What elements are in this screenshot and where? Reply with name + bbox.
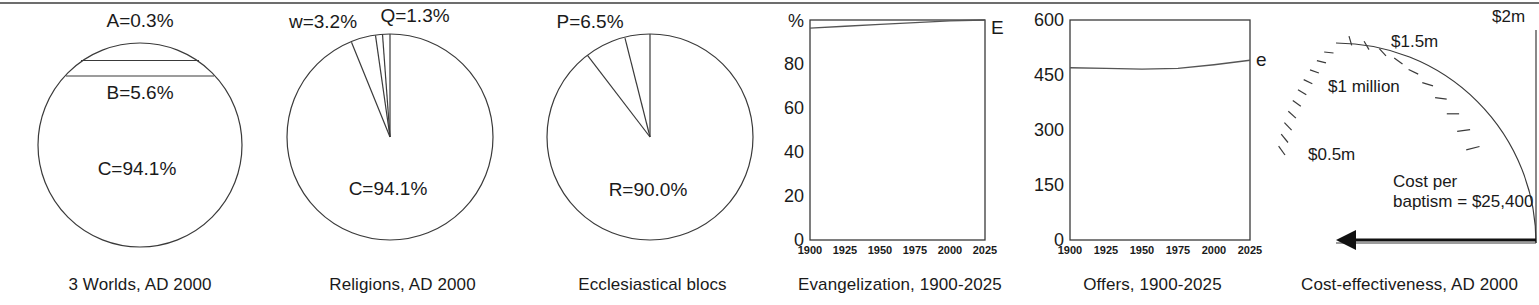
caption-three-worlds: 3 Worlds, AD 2000 <box>0 275 280 295</box>
x-tick-1950: 1950 <box>868 244 892 256</box>
y-tick-80: 80 <box>784 54 804 74</box>
panel-offers: e 0 150 300 450 600 1900 1925 1950 1975 … <box>1025 0 1280 305</box>
x-tick-1950: 1950 <box>1130 244 1154 256</box>
y-tick-60: 60 <box>784 98 804 118</box>
cost-effectiveness-gauge-svg: $0.5m $1 million $1.5m $2m Cost per bapt… <box>1280 0 1539 275</box>
caption-religions: Religions, AD 2000 <box>275 275 530 295</box>
y-tick-450: 450 <box>1034 65 1064 85</box>
label-c: C=94.1% <box>349 178 428 199</box>
panel-evangelization: E % 0 20 40 60 80 1900 1925 1950 1975 20… <box>775 0 1025 305</box>
y-unit-percent: % <box>788 11 804 31</box>
x-tick-2025: 2025 <box>1238 244 1262 256</box>
gauge-label-1-5m: $1.5m <box>1391 32 1438 51</box>
gauge-label-1-million: $1 million <box>1328 77 1400 96</box>
label-q: Q=1.3% <box>380 5 449 26</box>
panel-ecclesiastical-blocs: P=6.5% R=90.0% Ecclesiastical blocs <box>525 0 780 305</box>
x-tick-1975: 1975 <box>1166 244 1190 256</box>
y-tick-40: 40 <box>784 142 804 162</box>
gauge-arc <box>1336 43 1536 243</box>
x-tick-1925: 1925 <box>1094 244 1118 256</box>
pie-divider-1 <box>625 38 650 137</box>
series-label-E: E <box>991 17 1004 38</box>
caption-cost-effectiveness: Cost-effectiveness, AD 2000 <box>1280 275 1539 295</box>
gauge-note-line1: Cost per <box>1393 172 1458 191</box>
gauge-tick-marks <box>1279 52 1334 155</box>
three-worlds-pie-svg: A=0.3% B=5.6% C=94.1% <box>0 0 280 275</box>
plot-frame <box>810 20 985 240</box>
evangelization-chart-svg: E % 0 20 40 60 80 1900 1925 1950 1975 20… <box>775 0 1025 275</box>
caption-ecclesiastical-blocs: Ecclesiastical blocs <box>525 275 780 295</box>
gauge-label-2m: $2m <box>1492 7 1525 26</box>
x-tick-1900: 1900 <box>798 244 822 256</box>
y-tick-150: 150 <box>1034 175 1064 195</box>
label-r: R=90.0% <box>609 179 688 200</box>
label-p: P=6.5% <box>556 11 623 32</box>
panel-religions: w=3.2% Q=1.3% C=94.1% Religions, AD 2000 <box>275 0 530 305</box>
x-tick-2025: 2025 <box>973 244 997 256</box>
gauge-note-line2: baptism = $25,400 <box>1393 192 1533 211</box>
series-line-E <box>810 20 985 28</box>
x-tick-1925: 1925 <box>833 244 857 256</box>
label-c: C=94.1% <box>98 158 177 179</box>
series-line-e <box>1070 60 1250 69</box>
caption-offers: Offers, 1900-2025 <box>1025 275 1280 295</box>
x-tick-2000: 2000 <box>1202 244 1226 256</box>
offers-chart-svg: e 0 150 300 450 600 1900 1925 1950 1975 … <box>1025 0 1280 275</box>
religions-pie-svg: w=3.2% Q=1.3% C=94.1% <box>275 0 530 275</box>
series-label-e: e <box>1256 49 1267 70</box>
panel-three-worlds: A=0.3% B=5.6% C=94.1% 3 Worlds, AD 2000 <box>0 0 280 305</box>
label-b: B=5.6% <box>106 82 173 103</box>
gauge-needle-head <box>1336 230 1356 250</box>
y-tick-20: 20 <box>784 186 804 206</box>
x-tick-1975: 1975 <box>903 244 927 256</box>
pie-outline <box>38 43 242 247</box>
blocs-pie-svg: P=6.5% R=90.0% <box>525 0 780 275</box>
y-tick-600: 600 <box>1034 10 1064 30</box>
pie-divider-2 <box>376 35 391 137</box>
gauge-label-0-5m: $0.5m <box>1308 145 1355 164</box>
label-a: A=0.3% <box>106 10 173 31</box>
plot-frame <box>1070 20 1250 240</box>
y-tick-300: 300 <box>1034 120 1064 140</box>
caption-evangelization: Evangelization, 1900-2025 <box>775 275 1025 295</box>
x-tick-2000: 2000 <box>938 244 962 256</box>
x-tick-1900: 1900 <box>1058 244 1082 256</box>
panel-cost-effectiveness: $0.5m $1 million $1.5m $2m Cost per bapt… <box>1280 0 1539 305</box>
pie-divider-2 <box>588 55 651 137</box>
label-w: w=3.2% <box>288 11 357 32</box>
figure-root: A=0.3% B=5.6% C=94.1% 3 Worlds, AD 2000 … <box>0 0 1539 305</box>
